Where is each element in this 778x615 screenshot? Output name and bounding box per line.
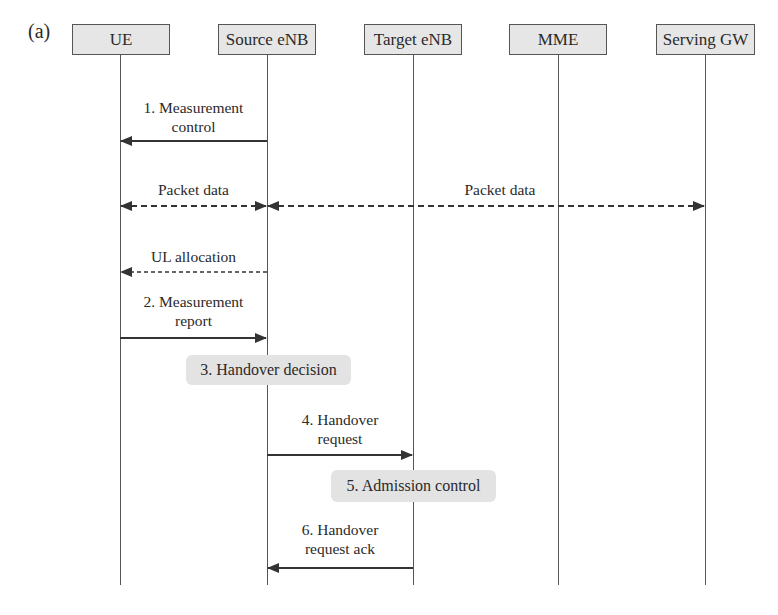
label-line: request ack	[267, 539, 413, 558]
label-measurement-control: 1. Measurement control	[120, 98, 267, 136]
label-line: request	[267, 429, 413, 448]
label-line: 6. Handover	[267, 520, 413, 539]
label-line: 2. Measurement	[120, 292, 267, 311]
label-ul-allocation: UL allocation	[120, 247, 267, 266]
label-packet-data-right: Packet data	[440, 180, 560, 199]
label-line: report	[120, 311, 267, 330]
label-handover-request-ack: 6. Handover request ack	[267, 520, 413, 558]
label-line: control	[120, 117, 267, 136]
label-line: 1. Measurement	[120, 98, 267, 117]
label-line: 4. Handover	[267, 410, 413, 429]
label-measurement-report: 2. Measurement report	[120, 292, 267, 330]
action-handover-decision: 3. Handover decision	[186, 355, 351, 385]
label-handover-request: 4. Handover request	[267, 410, 413, 448]
label-packet-data-left: Packet data	[120, 180, 267, 199]
action-admission-control: 5. Admission control	[331, 470, 496, 502]
